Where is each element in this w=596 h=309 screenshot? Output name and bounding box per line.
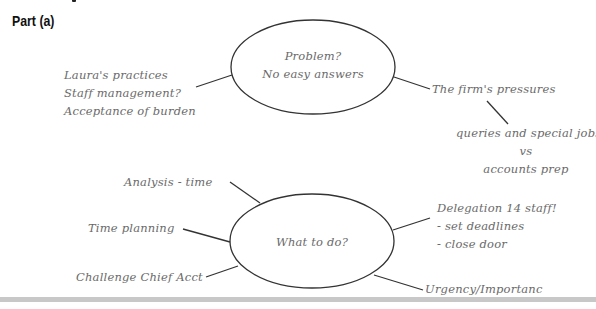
- connector-time-planning: [183, 229, 230, 242]
- connector-pressures-sub: [487, 101, 508, 124]
- what-to-do-label: What to do?: [252, 233, 372, 251]
- branch-item: Delegation 14 staff!: [437, 199, 557, 217]
- branch-item: - close door: [437, 235, 557, 253]
- branch-item: queries and special jobs: [456, 124, 596, 142]
- firm-pressures-label: The firm's pressures: [432, 80, 556, 98]
- connector-right-top: [394, 77, 430, 89]
- branch-item: vs: [456, 142, 596, 160]
- branch-item: Laura's practices: [64, 66, 196, 84]
- branch-item: Staff management?: [64, 84, 196, 102]
- analysis-label: Analysis - time: [124, 173, 212, 191]
- challenge-label: Challenge Chief Acct: [76, 268, 203, 286]
- connector-delegation: [393, 218, 430, 230]
- connector-analysis: [230, 182, 260, 203]
- divider-bar: [0, 297, 596, 302]
- branch-item: accounts prep: [456, 160, 596, 178]
- branch-item: - set deadlines: [437, 217, 557, 235]
- connector-left-top: [196, 75, 232, 87]
- connector-urgency: [374, 275, 423, 290]
- urgency-label: Urgency/Importanc: [425, 280, 543, 298]
- connector-challenge: [206, 266, 238, 277]
- branch-item: Acceptance of burden: [64, 102, 196, 120]
- sub-branch-list: queries and special jobs vs accounts pre…: [456, 124, 596, 178]
- problem-label: Problem?: [253, 47, 373, 65]
- time-planning-label: Time planning: [88, 219, 174, 237]
- left-branch-list: Laura's practices Staff management? Acce…: [64, 66, 196, 120]
- problem-node-text: Problem? No easy answers: [253, 47, 373, 83]
- delegation-list: Delegation 14 staff! - set deadlines - c…: [437, 199, 557, 253]
- no-easy-answers-label: No easy answers: [253, 65, 373, 83]
